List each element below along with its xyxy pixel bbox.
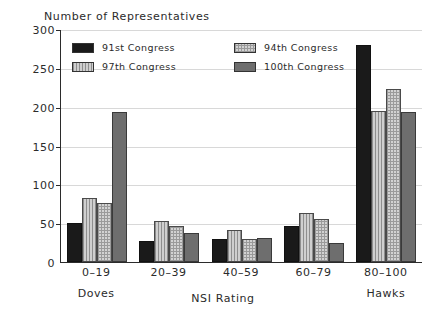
bar[interactable] bbox=[227, 230, 242, 262]
legend-item[interactable]: 100th Congress bbox=[234, 61, 344, 72]
bar[interactable] bbox=[386, 89, 401, 262]
bar[interactable] bbox=[154, 221, 169, 262]
bar[interactable] bbox=[299, 213, 314, 262]
legend-label: 100th Congress bbox=[264, 61, 344, 72]
legend-swatch-icon bbox=[234, 62, 256, 72]
x-axis-tick-label: 40–59 bbox=[205, 266, 277, 279]
x-axis-tick-label: 80–100 bbox=[350, 266, 422, 279]
x-axis-tick-label: 60–79 bbox=[277, 266, 349, 279]
chart-legend: 91st Congress94th Congress97th Congress1… bbox=[72, 42, 344, 72]
legend-swatch-icon bbox=[234, 43, 256, 53]
legend-label: 91st Congress bbox=[102, 42, 175, 53]
bar[interactable] bbox=[97, 203, 112, 262]
legend-item[interactable]: 91st Congress bbox=[72, 42, 176, 53]
legend-swatch-icon bbox=[72, 43, 94, 53]
chart-figure: Number of Representatives 05010015020025… bbox=[0, 0, 446, 320]
legend-item[interactable]: 97th Congress bbox=[72, 61, 176, 72]
bar[interactable] bbox=[371, 111, 386, 262]
legend-item[interactable]: 94th Congress bbox=[234, 42, 344, 53]
x-axis-tick-label: 0–19 bbox=[60, 266, 132, 279]
bar[interactable] bbox=[329, 243, 344, 262]
y-axis-title: Number of Representatives bbox=[44, 10, 210, 23]
bar[interactable] bbox=[242, 239, 257, 262]
legend-label: 94th Congress bbox=[264, 42, 338, 53]
bar[interactable] bbox=[212, 239, 227, 262]
bar[interactable] bbox=[401, 112, 416, 262]
bar[interactable] bbox=[314, 219, 329, 262]
bar[interactable] bbox=[284, 226, 299, 262]
bar[interactable] bbox=[257, 238, 272, 262]
bar-group bbox=[350, 30, 422, 262]
bar[interactable] bbox=[184, 233, 199, 263]
x-axis-tick-labels: 0–1920–3940–5960–7980–100 bbox=[60, 266, 422, 279]
bar[interactable] bbox=[139, 241, 154, 262]
x-axis-title: NSI Rating bbox=[0, 292, 446, 305]
bar[interactable] bbox=[82, 198, 97, 262]
bar[interactable] bbox=[67, 223, 82, 262]
bar[interactable] bbox=[356, 45, 371, 262]
legend-label: 97th Congress bbox=[102, 61, 176, 72]
legend-swatch-icon bbox=[72, 62, 94, 72]
bar[interactable] bbox=[169, 226, 184, 263]
x-axis-tick-label: 20–39 bbox=[132, 266, 204, 279]
y-axis-tick-label: 0 bbox=[48, 257, 62, 270]
bar[interactable] bbox=[112, 112, 127, 262]
